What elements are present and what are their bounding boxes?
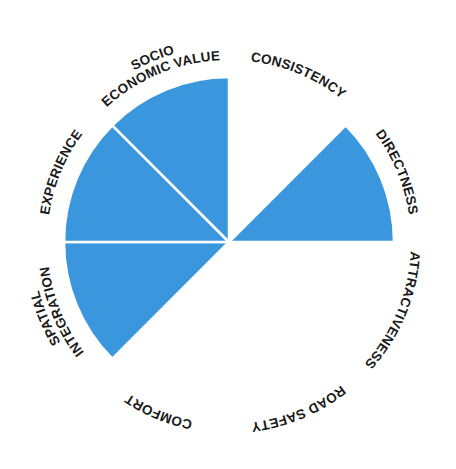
axis-label-comfort: COMFORT (122, 391, 194, 432)
axis-label-attractiveness: ATTRACTIVENESS (362, 251, 423, 372)
wedge-spatial-integration (64, 242, 229, 359)
chart-wedges (64, 77, 394, 359)
wedge-directness (229, 125, 394, 242)
polar-area-chart: CONSISTENCYDIRECTNESSATTRACTIVENESSROAD … (0, 0, 456, 469)
axis-label-consistency: CONSISTENCY (250, 49, 349, 101)
axis-label-road-safety: ROAD SAFETY (250, 383, 348, 435)
